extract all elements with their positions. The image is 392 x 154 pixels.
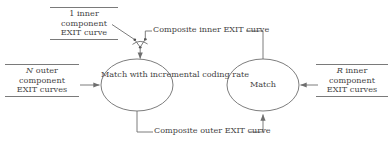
input-label-r-inner-line-3: EXIT curves [316, 85, 388, 94]
junction-leg-right [140, 39, 145, 47]
node-label-match: Match [227, 80, 299, 90]
input-label-n-outer-line-3: EXIT curves [5, 85, 79, 94]
edge-label-composite-inner: Composite inner EXIT curve [152, 25, 246, 35]
edge-label-composite-inner-line-2: EXIT curve [223, 24, 269, 34]
node-label-match-incremental: Match with incremental coding rate [101, 70, 173, 80]
diagram-canvas: 1 inner component EXIT curve N outer com… [0, 0, 392, 154]
edge-label-composite-outer-line-1: Composite outer [154, 125, 222, 135]
label-rule-bottom [316, 96, 388, 97]
junction-leg-left [135, 40, 140, 47]
symbol-r: R [337, 65, 343, 75]
node-label-line-3: coding rate [202, 69, 249, 79]
edge-label-composite-outer: Composite outer EXIT curve [153, 126, 249, 136]
label-rule-bottom [50, 39, 118, 40]
node-label-line-1: Match with [101, 69, 148, 79]
node-label-line-2: incremental [150, 69, 199, 79]
input-label-one-inner-line-3: EXIT curve [50, 28, 118, 37]
node-ellipse-match-incremental [101, 59, 173, 111]
junction-arc [133, 41, 148, 44]
edge-label-composite-inner-line-1: Composite inner [153, 24, 221, 34]
input-label-one-inner-component: 1 inner component EXIT curve [50, 6, 118, 41]
symbol-n: N [26, 65, 33, 75]
input-label-r-inner-component: R inner component EXIT curves [316, 63, 388, 98]
input-label-n-outer-component: N outer component EXIT curves [5, 63, 79, 98]
edge-label-composite-outer-line-2: EXIT curve [225, 125, 271, 135]
edge-composite-inner [145, 31, 263, 59]
label-rule-bottom [5, 96, 79, 97]
node-label-line-1: Match [250, 79, 276, 89]
